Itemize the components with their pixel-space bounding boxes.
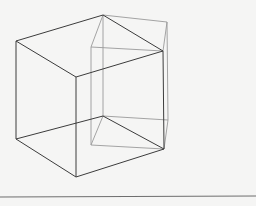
ghost-edge xyxy=(163,22,167,51)
cube-edge xyxy=(103,116,164,149)
cube-edge xyxy=(76,149,164,177)
ghost-edge xyxy=(91,145,164,149)
ghost-cube xyxy=(91,15,168,149)
baseline xyxy=(0,196,256,197)
ghost-edge xyxy=(91,47,163,51)
main-cube xyxy=(16,15,164,177)
cube-edge xyxy=(16,116,103,139)
ghost-edge xyxy=(103,116,168,120)
cube-edge xyxy=(16,41,76,77)
cube-diagram-svg xyxy=(0,0,256,206)
cube-edge xyxy=(163,51,164,149)
cube-edge xyxy=(16,15,103,41)
cube-edge xyxy=(16,139,76,177)
ghost-edge xyxy=(164,120,168,149)
ghost-edge xyxy=(167,22,168,120)
cube-diagram xyxy=(0,0,256,206)
cube-edge xyxy=(76,51,163,77)
ghost-edge xyxy=(91,15,103,47)
ghost-edge xyxy=(91,116,103,145)
